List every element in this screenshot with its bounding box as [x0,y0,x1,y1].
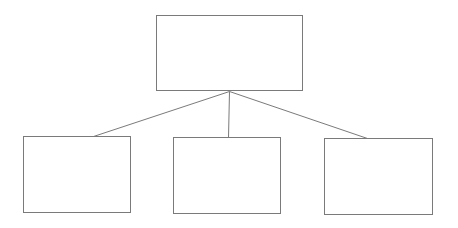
root-node-box [156,15,303,91]
child-node-box-right [324,138,433,215]
connector-line-left [91,92,230,138]
connector-line-right [230,92,368,139]
org-chart-diagram [0,0,458,228]
child-node-box-middle [173,137,281,214]
connector-line-middle [229,92,230,138]
child-node-box-left [23,136,131,213]
